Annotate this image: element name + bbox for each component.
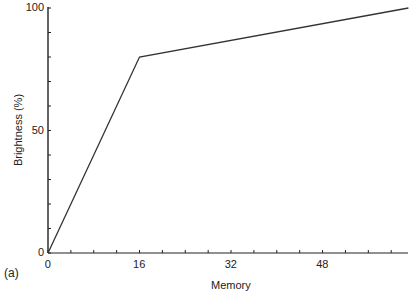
y-axis-label: Brightness (%) <box>12 90 24 170</box>
y-tick-label: 0 <box>38 246 44 258</box>
x-axis-label: Memory <box>211 279 251 291</box>
y-tick-label: 50 <box>32 124 44 136</box>
ticks <box>48 8 391 253</box>
x-tick-label: 0 <box>45 258 51 270</box>
x-tick-label: 48 <box>316 258 328 270</box>
axes <box>48 7 408 253</box>
brightness-line <box>48 8 408 253</box>
panel-label: (a) <box>4 266 19 280</box>
chart-canvas <box>0 0 409 295</box>
x-tick-label: 16 <box>133 258 145 270</box>
y-tick-label: 100 <box>26 1 44 13</box>
x-tick-label: 32 <box>225 258 237 270</box>
